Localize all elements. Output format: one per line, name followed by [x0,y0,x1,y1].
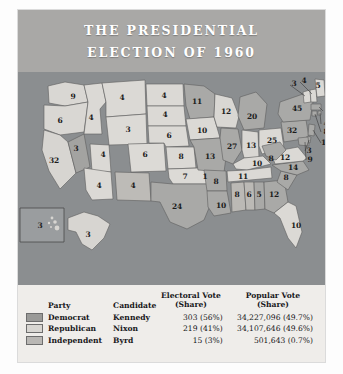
popular-vote-header: Popular Vote (Share) [233,291,315,311]
democrat-swatch [26,313,43,322]
vote-label-mt: 4 [119,93,124,102]
vote-label-co: 6 [142,150,147,159]
candidate-cell: Nixon [105,323,159,335]
state-ma [311,104,321,110]
table-row: DemocratKennedy303 (56%)34,227,096 (49.7… [26,311,315,323]
state-tx [151,182,214,229]
vote-label-ky: 10 [252,159,262,168]
figure-header: THE PRESIDENTIAL ELECTION OF 1960 [18,10,325,72]
vote-label-ct: 8 [323,127,325,136]
party-cell: Independent [46,335,105,347]
vote-label-vt: 3 [291,79,296,88]
swatch-header [26,291,46,311]
vote-label-fl: 10 [291,221,301,230]
figure-title-line-2: ELECTION OF 1960 [87,45,256,60]
legend-table: Party Candidate Electoral Vote (Share) P… [18,285,325,362]
independent-swatch [26,336,43,345]
vote-label-wy: 3 [125,125,130,134]
vote-label-la: 10 [216,201,226,210]
vote-label-or: 6 [57,116,62,125]
candidate-cell: Byrd [105,335,159,347]
electoral-vote-cell: 303 (56%) [159,311,233,323]
vote-label-ok: 7 [182,172,187,181]
vote-label-tx: 24 [172,202,182,211]
vote-label-va: 12 [280,153,290,162]
state-nh [310,89,317,102]
republican-swatch [26,324,43,333]
candidate-cell: Kennedy [105,311,159,323]
vote-label-il: 27 [227,142,237,151]
vote-label-ca: 32 [49,156,59,165]
results-table: Party Candidate Electoral Vote (Share) P… [26,291,315,347]
vote-label-in: 13 [246,141,256,150]
electoral-vote-cell: 15 (3%) [159,335,233,347]
vote-label-oh: 25 [267,136,277,145]
vote-label-ia: 10 [197,126,207,135]
vote-label-az: 4 [96,181,101,190]
vote-label-ne: 6 [166,131,171,140]
results-table-body: DemocratKennedy303 (56%)34,227,096 (49.7… [26,311,315,346]
electoral-vote-header: Electoral Vote (Share) [159,291,233,311]
vote-label-id: 4 [88,113,93,122]
electoral-vote-header-line2: (Share) [159,301,223,310]
vote-label-ny: 45 [292,104,302,113]
vote-label-nh: 4 [301,76,306,85]
state-wa [48,82,88,106]
vote-label-mo: 13 [205,152,215,161]
vote-label-md: 9 [307,155,312,164]
vote-label-ak: 3 [85,230,90,239]
candidate-header: Candidate [105,291,159,311]
vote-label-ar: 8 [213,177,218,186]
state-nj [308,124,315,136]
state-ct [312,111,317,116]
vote-label-nm: 4 [130,181,135,190]
party-cell: Democrat [46,311,105,323]
vote-label-wi: 12 [221,107,231,116]
popular-vote-cell: 501,643 (0.7%) [233,335,315,347]
state-or [44,102,88,135]
popular-vote-cell: 34,227,096 (49.7%) [233,311,315,323]
vote-label-de: 3 [306,146,311,155]
party-header: Party [46,291,105,311]
swatch-cell [26,335,46,347]
popular-vote-header-line2: (Share) [233,301,313,310]
electoral-vote-cell: 219 (41%) [159,323,233,335]
state-ri [318,111,321,115]
table-header-row: Party Candidate Electoral Vote (Share) P… [26,291,315,311]
vote-label-nc: 14 [288,163,298,172]
vote-label-pa: 32 [287,126,297,135]
vote-label-nd: 4 [161,91,166,100]
election-map-figure: THE PRESIDENTIAL ELECTION OF 1960 [18,10,325,362]
vote-label-ut: 4 [100,150,105,159]
vote-label-ms: 8 [234,190,239,199]
vote-label-me: 5 [315,81,320,90]
vote-label-ga: 12 [269,190,279,199]
vote-label-ks: 8 [178,152,183,161]
vote-label-ok-unpledged: 1 [202,172,207,181]
vote-label-hi: 3 [37,221,42,230]
vote-label-al: 6 [246,190,251,199]
figure-title-line-1: THE PRESIDENTIAL [84,23,259,38]
vote-label-tn: 11 [238,172,248,181]
vote-label-sd: 4 [162,110,167,119]
party-cell: Republican [46,323,105,335]
table-row: IndependentByrd15 (3%)501,643 (0.7%) [26,335,315,347]
us-electoral-map: 9632344344464468712411101381012202713251… [18,72,325,285]
swatch-cell [26,323,46,335]
popular-vote-cell: 34,107,646 (49.6%) [233,323,315,335]
state-id [84,83,106,134]
vote-label-nv: 3 [73,144,78,153]
swatch-cell [26,311,46,323]
map-graphic [18,72,325,285]
vote-label-wa: 9 [70,92,75,101]
table-row: RepublicanNixon219 (41%)34,107,646 (49.6… [26,323,315,335]
vote-label-wv: 8 [268,154,273,163]
vote-label-mi: 20 [247,112,257,121]
vote-label-al-dem: 5 [256,190,261,199]
vote-label-sc: 8 [283,173,288,182]
vote-label-nj: 16 [321,138,325,147]
vote-label-mn: 11 [192,97,202,106]
